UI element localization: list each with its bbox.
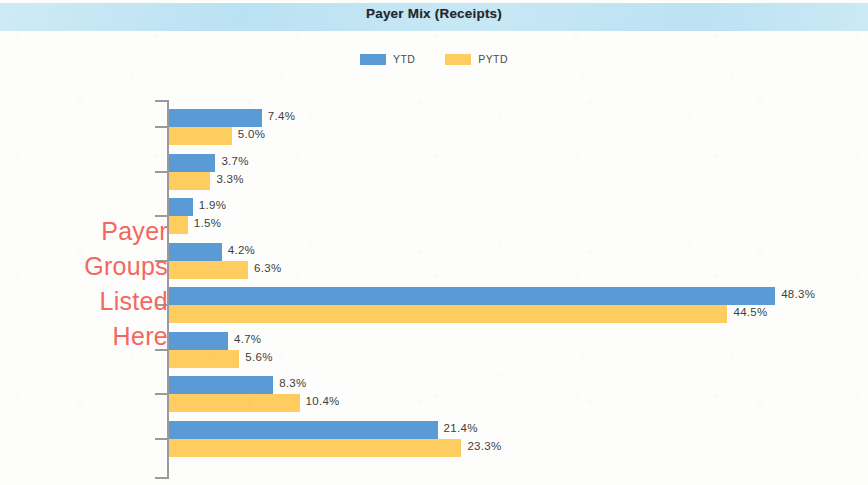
bar-value-label: 44.5% xyxy=(733,306,767,318)
payer-mix-chart-page: Payer Mix (Receipts) YTDPYTD 7.4%5.0%3.7… xyxy=(0,0,868,485)
bar-ytd[interactable] xyxy=(169,376,273,394)
axis-tick xyxy=(155,171,167,173)
bar-value-label: 5.6% xyxy=(245,351,272,363)
axis-tick xyxy=(155,393,167,395)
bar-ytd[interactable] xyxy=(169,198,193,216)
bar-ytd[interactable] xyxy=(169,154,215,172)
annotation-line-1: Payer xyxy=(56,214,168,249)
bar-pytd[interactable] xyxy=(169,261,248,279)
bar-value-label: 21.4% xyxy=(444,422,478,434)
bar-ytd[interactable] xyxy=(169,243,222,261)
bar-ytd[interactable] xyxy=(169,109,262,127)
handwritten-annotation: PayerGroupsListedHere xyxy=(56,214,168,354)
bar-value-label: 1.9% xyxy=(199,199,226,211)
bar-value-label: 5.0% xyxy=(238,128,265,140)
bar-ytd[interactable] xyxy=(169,287,775,305)
bar-value-label: 4.7% xyxy=(234,333,261,345)
bar-pytd[interactable] xyxy=(169,350,239,368)
bar-value-label: 1.5% xyxy=(194,217,221,229)
bar-value-label: 3.3% xyxy=(216,173,243,185)
bar-pytd[interactable] xyxy=(169,172,210,190)
bar-pytd[interactable] xyxy=(169,439,461,457)
bar-value-label: 7.4% xyxy=(268,110,295,122)
annotation-line-3: Listed xyxy=(56,284,168,319)
bar-pytd[interactable] xyxy=(169,127,232,145)
axis-tick-bottom xyxy=(155,477,167,479)
bar-ytd[interactable] xyxy=(169,421,438,439)
bar-value-label: 48.3% xyxy=(781,288,815,300)
bar-pytd[interactable] xyxy=(169,394,300,412)
bar-value-label: 8.3% xyxy=(279,377,306,389)
annotation-line-2: Groups xyxy=(56,249,168,284)
annotation-line-4: Here xyxy=(56,319,168,354)
axis-tick xyxy=(155,438,167,440)
axis-tick-top xyxy=(155,100,167,102)
bar-value-label: 10.4% xyxy=(306,395,340,407)
bar-value-label: 23.3% xyxy=(467,440,501,452)
bar-value-label: 4.2% xyxy=(228,244,255,256)
bar-pytd[interactable] xyxy=(169,305,727,323)
bar-ytd[interactable] xyxy=(169,332,228,350)
bar-value-label: 3.7% xyxy=(221,155,248,167)
bar-value-label: 6.3% xyxy=(254,262,281,274)
bar-pytd[interactable] xyxy=(169,216,188,234)
axis-tick xyxy=(155,126,167,128)
